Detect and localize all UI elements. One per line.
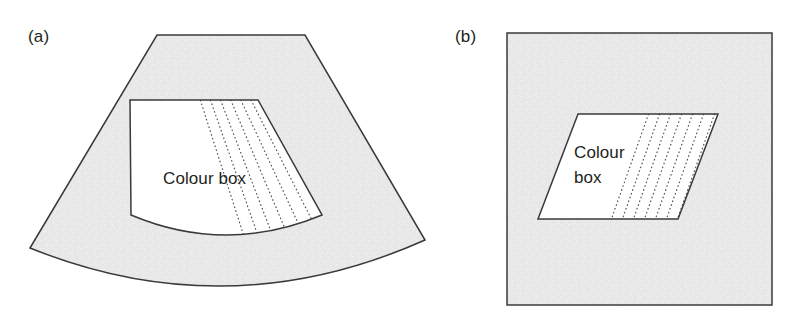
figure-svg: (a) Colour box (b) (0, 0, 792, 328)
panel-a-label: (a) (28, 27, 49, 46)
panel-b-label: (b) (455, 27, 476, 46)
colour-box-a-label: Colour box (163, 169, 247, 188)
colour-box-b-label-line2: box (574, 168, 602, 187)
colour-box-b-label-line1: Colour (574, 143, 625, 162)
figure-container: (a) Colour box (b) (0, 0, 792, 328)
